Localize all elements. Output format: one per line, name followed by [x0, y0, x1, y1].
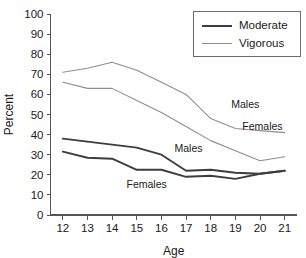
y-tick-label: 0	[37, 209, 43, 221]
y-axis: 0102030405060708090100 Percent	[2, 8, 51, 221]
y-tick-label: 80	[31, 48, 44, 60]
x-axis-title: Age	[163, 244, 185, 258]
annotation-label: Males	[175, 142, 203, 154]
y-tick-label: 20	[31, 169, 44, 181]
annotation-label: Females	[127, 178, 167, 190]
y-tick-label: 50	[31, 109, 44, 121]
legend-line-swatch-icon	[202, 38, 232, 48]
x-tick-label: 13	[81, 222, 94, 234]
legend-item-moderate: Moderate	[194, 16, 300, 34]
y-tick-label: 10	[31, 189, 44, 201]
y-axis-ticks: 0102030405060708090100	[24, 8, 50, 221]
series-line-moderate-females	[63, 152, 285, 179]
x-tick-label: 19	[229, 222, 242, 234]
chart-container: 0102030405060708090100 Percent 121314151…	[0, 0, 306, 258]
x-tick-label: 21	[278, 222, 291, 234]
legend-item-label: Moderate	[239, 19, 288, 31]
x-tick-label: 14	[106, 222, 119, 234]
x-axis-ticks: 12131415161718192021	[56, 215, 291, 234]
x-axis: 12131415161718192021 Age	[51, 215, 298, 258]
legend-item-vigorous: Vigorous	[194, 34, 300, 52]
x-tick-label: 17	[180, 222, 193, 234]
chart-legend: ModerateVigorous	[193, 11, 301, 57]
annotation-label: Males	[231, 98, 259, 110]
annotation-label: Females	[242, 120, 282, 132]
x-tick-label: 20	[254, 222, 267, 234]
y-tick-label: 70	[31, 68, 44, 80]
x-tick-label: 15	[130, 222, 143, 234]
y-tick-label: 40	[31, 129, 44, 141]
y-tick-label: 30	[31, 149, 44, 161]
y-tick-label: 100	[24, 8, 43, 20]
legend-item-label: Vigorous	[239, 37, 284, 49]
legend-line-swatch-icon	[202, 20, 232, 30]
x-tick-label: 18	[204, 222, 217, 234]
y-axis-title: Percent	[2, 93, 16, 135]
y-tick-label: 60	[31, 88, 44, 100]
x-tick-label: 16	[155, 222, 168, 234]
y-tick-label: 90	[31, 28, 44, 40]
x-tick-label: 12	[56, 222, 69, 234]
